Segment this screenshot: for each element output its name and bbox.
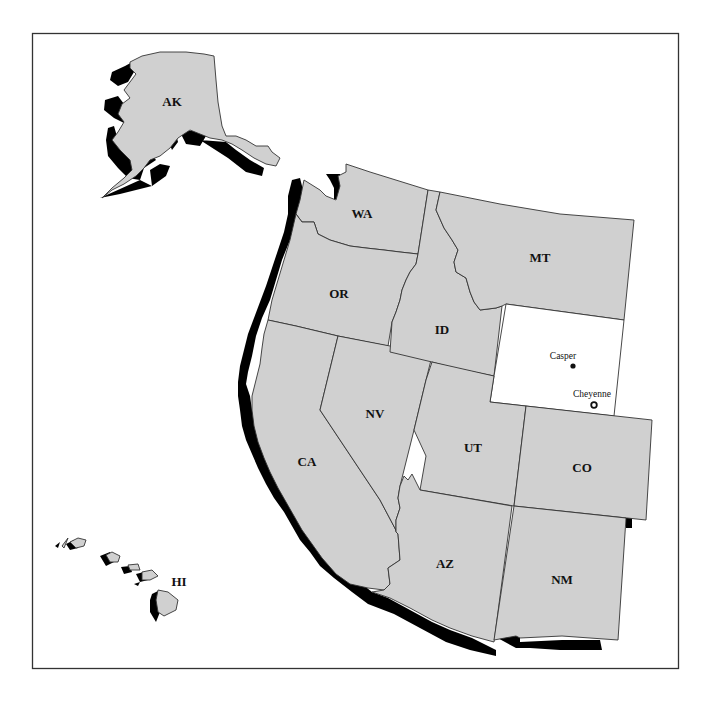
state-alaska[interactable]: AK: [100, 52, 280, 198]
state-hawaii[interactable]: HI: [55, 538, 187, 622]
state-label-nv: NV: [366, 406, 385, 421]
state-label-hi: HI: [171, 574, 186, 589]
state-label-mt: MT: [530, 250, 551, 265]
state-colorado[interactable]: CO: [514, 406, 652, 520]
state-label-wa: WA: [352, 206, 374, 221]
star-in-circle-icon: [591, 402, 597, 408]
western-us-map: AK HI WA OR CA NV ID MT: [0, 0, 705, 703]
hawaii-islands: [62, 538, 178, 616]
city-label-cheyenne: Cheyenne: [573, 389, 611, 399]
hawaii-shadow: [55, 540, 160, 622]
state-label-ak: AK: [162, 94, 182, 109]
state-label-nm: NM: [551, 572, 573, 587]
dot-icon: [570, 363, 575, 368]
state-label-id: ID: [435, 322, 449, 337]
state-new-mexico[interactable]: NM: [494, 506, 626, 640]
state-wyoming[interactable]: Casper Cheyenne: [490, 304, 624, 416]
state-label-ca: CA: [298, 454, 317, 469]
city-label-casper: Casper: [550, 351, 577, 361]
state-label-az: AZ: [436, 556, 454, 571]
state-label-or: OR: [329, 286, 349, 301]
state-label-co: CO: [572, 460, 592, 475]
state-label-ut: UT: [464, 440, 482, 455]
